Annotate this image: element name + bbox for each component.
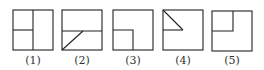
- figure-label: (3): [125, 54, 141, 67]
- figure-label: (2): [74, 54, 90, 67]
- diagonal-line: [62, 31, 83, 50]
- figure-1: (1): [13, 10, 53, 67]
- diagonal-line: [163, 10, 183, 30]
- figure-2: (2): [62, 10, 102, 67]
- figure-label: (1): [25, 54, 41, 67]
- figure-label: (4): [175, 54, 191, 67]
- figure-5: (5): [212, 11, 252, 67]
- figure-3: (3): [113, 10, 153, 67]
- figure-4: (4): [163, 10, 203, 67]
- inner-square-bottom-left: [113, 30, 133, 50]
- figure-label: (5): [224, 54, 240, 67]
- figure-diagram: (1) (2) (3) (4) (5): [0, 0, 264, 70]
- inner-square-top-left: [212, 11, 233, 31]
